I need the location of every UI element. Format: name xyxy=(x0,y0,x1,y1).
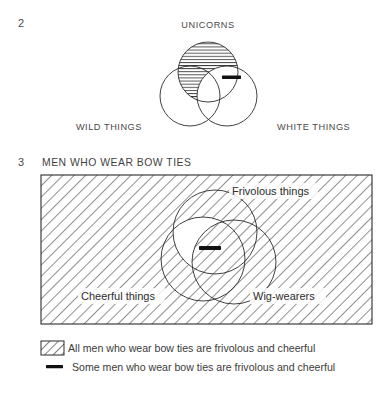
diagram-3-label-frivolous: Frivolous things xyxy=(229,183,318,199)
legend-dash-swatch xyxy=(46,365,63,368)
legend-row-all: All men who wear bow ties are frivolous … xyxy=(41,341,315,355)
diagram-3-top-label: Frivolous things xyxy=(232,185,310,197)
diagram-2-right-label: WHITE THINGS xyxy=(277,122,350,132)
legend-row-some: Some men who wear bow ties are frivolous… xyxy=(46,361,335,373)
legend-hatch-swatch xyxy=(41,341,64,355)
diagram-3-number: 3 xyxy=(18,156,24,168)
legend-text-some: Some men who wear bow ties are frivolous… xyxy=(72,361,335,373)
diagram-3-heading: MEN WHO WEAR BOW TIES xyxy=(42,157,191,168)
venn-diagram-sheet: 2 UNICORNS WILD THINGS WHITE THINGS 3 ME… xyxy=(0,0,388,395)
diagram-3-label-wig-wearers: Wig-wearers xyxy=(250,288,326,304)
diagram-3-label-cheerful: Cheerful things xyxy=(78,288,165,304)
diagram-canvas: 2 UNICORNS WILD THINGS WHITE THINGS 3 ME… xyxy=(0,0,388,395)
diagram-2-some-dash-mark xyxy=(222,76,241,79)
legend-text-all: All men who wear bow ties are frivolous … xyxy=(68,342,315,354)
diagram-3-group: 3 MEN WHO WEAR BOW TIES Frivolous things… xyxy=(18,156,372,324)
diagram-2-left-label: WILD THINGS xyxy=(76,122,142,132)
diagram-3-some-dash-mark xyxy=(199,246,221,250)
diagram-3-right-label: Wig-wearers xyxy=(253,290,315,302)
diagram-3-left-label: Cheerful things xyxy=(81,290,155,302)
